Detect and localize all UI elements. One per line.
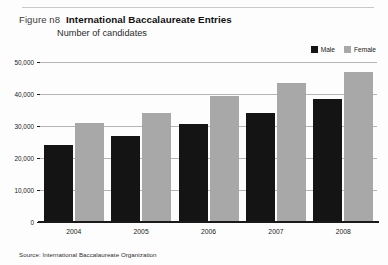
- bar-group-2006: [175, 62, 242, 222]
- bar-female-2007[interactable]: [277, 83, 306, 222]
- bar-female-2008[interactable]: [344, 72, 373, 222]
- legend-label-male: Male: [321, 46, 335, 53]
- bar-female-2004[interactable]: [75, 123, 104, 222]
- figure-page: Figure n8 International Baccalaureate En…: [0, 0, 388, 265]
- x-axis-label-2006: 2006: [175, 228, 242, 235]
- top-divider: [22, 7, 374, 8]
- bar-male-2006[interactable]: [179, 124, 208, 222]
- y-axis-tick-label: 10,000: [0, 187, 34, 194]
- bar-group-2004: [40, 62, 107, 222]
- bar-groups: [40, 62, 377, 222]
- x-axis-line: [38, 221, 379, 223]
- legend-item-female[interactable]: Female: [344, 46, 376, 53]
- figure-subtitle: Number of candidates: [57, 28, 359, 38]
- y-axis-tick-label: 50,000: [0, 59, 34, 66]
- plot-area: 010,00020,00030,00040,00050,000: [40, 62, 377, 222]
- title-line: Figure n8 International Baccalaureate En…: [19, 14, 359, 25]
- bar-male-2004[interactable]: [44, 145, 73, 222]
- y-axis-tick-label: 20,000: [0, 155, 34, 162]
- legend-item-male[interactable]: Male: [311, 46, 335, 53]
- y-axis-tick-label: 30,000: [0, 123, 34, 130]
- bar-female-2006[interactable]: [210, 96, 239, 222]
- figure-header: Figure n8 International Baccalaureate En…: [19, 14, 359, 38]
- chart-legend: MaleFemale: [311, 46, 376, 53]
- bar-group-2007: [242, 62, 309, 222]
- legend-swatch-female: [344, 46, 351, 53]
- legend-label-female: Female: [354, 46, 376, 53]
- bar-group-2005: [107, 62, 174, 222]
- source-note: Source: International Baccalaureate Orga…: [19, 251, 157, 258]
- y-axis-tick-label: 0: [0, 219, 34, 226]
- bar-group-2008: [310, 62, 377, 222]
- x-axis-label-2004: 2004: [40, 228, 107, 235]
- legend-swatch-male: [311, 46, 318, 53]
- bar-female-2005[interactable]: [142, 113, 171, 222]
- x-axis-labels: 20042005200620072008: [40, 228, 377, 235]
- figure-number-label: Figure n8: [19, 14, 60, 25]
- figure-title: International Baccalaureate Entries: [66, 14, 232, 25]
- y-axis-tick-label: 40,000: [0, 91, 34, 98]
- bar-male-2008[interactable]: [313, 99, 342, 222]
- bar-male-2007[interactable]: [246, 113, 275, 222]
- bar-male-2005[interactable]: [111, 136, 140, 222]
- x-axis-label-2007: 2007: [242, 228, 309, 235]
- x-axis-label-2008: 2008: [310, 228, 377, 235]
- x-axis-label-2005: 2005: [107, 228, 174, 235]
